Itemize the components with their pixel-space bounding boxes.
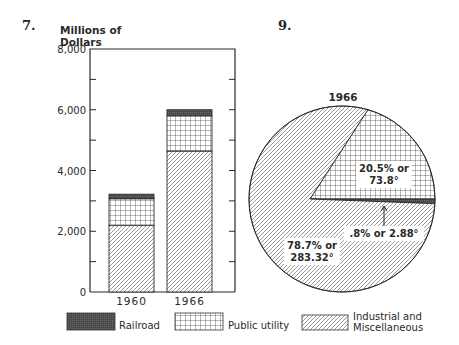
pie-label-utility-line: 20.5% or [359,163,409,174]
pie-label-utility-line: 73.8° [369,175,399,186]
bar-segment-industrial-1966 [167,151,212,292]
legend-label-industrial-line2: Miscellaneous [353,322,423,333]
legend-label-industrial: Industrial and Miscellaneous [353,311,423,333]
legend-swatch-utility [175,313,223,330]
y-tick-label: 2,000 [57,226,86,237]
legend-label-railroad: Railroad [119,320,160,331]
pie-label-industrial-line: 78.7% or [287,240,337,251]
pie-label-industrial: 78.7% or283.32° [284,238,340,265]
legend-label-utility: Public utility [228,320,289,331]
pie-label-railroad: .8% or 2.88° [344,226,424,241]
pie-title: 1966 [328,91,357,103]
pie-label-railroad-line: .8% or 2.88° [349,228,418,239]
y-tick-label: 8,000 [57,44,86,55]
bar-segment-utility-1960 [109,199,154,225]
bar-segment-railroad-1966 [167,110,212,116]
legend-swatch-industrial [302,315,348,330]
bar-segment-railroad-1960 [109,194,154,199]
bar-segment-industrial-1960 [109,225,154,292]
legend-swatch-railroad [67,313,115,330]
y-tick-label: 0 [80,287,86,298]
pie-label-utility: 20.5% or73.8° [356,161,412,188]
pie-chart [249,106,435,292]
x-tick-label: 1966 [174,295,205,307]
y-tick-label: 6,000 [57,105,86,116]
chart-canvas: 02,0004,0006,0008,00019601966 1966 20.5%… [0,0,459,345]
bar-segment-utility-1966 [167,116,212,151]
legend-label-industrial-line1: Industrial and [353,311,423,322]
x-tick-label: 1960 [116,295,147,307]
y-tick-label: 4,000 [57,166,86,177]
bar-chart-bars [109,110,212,292]
pie-label-industrial-line: 283.32° [290,252,334,263]
